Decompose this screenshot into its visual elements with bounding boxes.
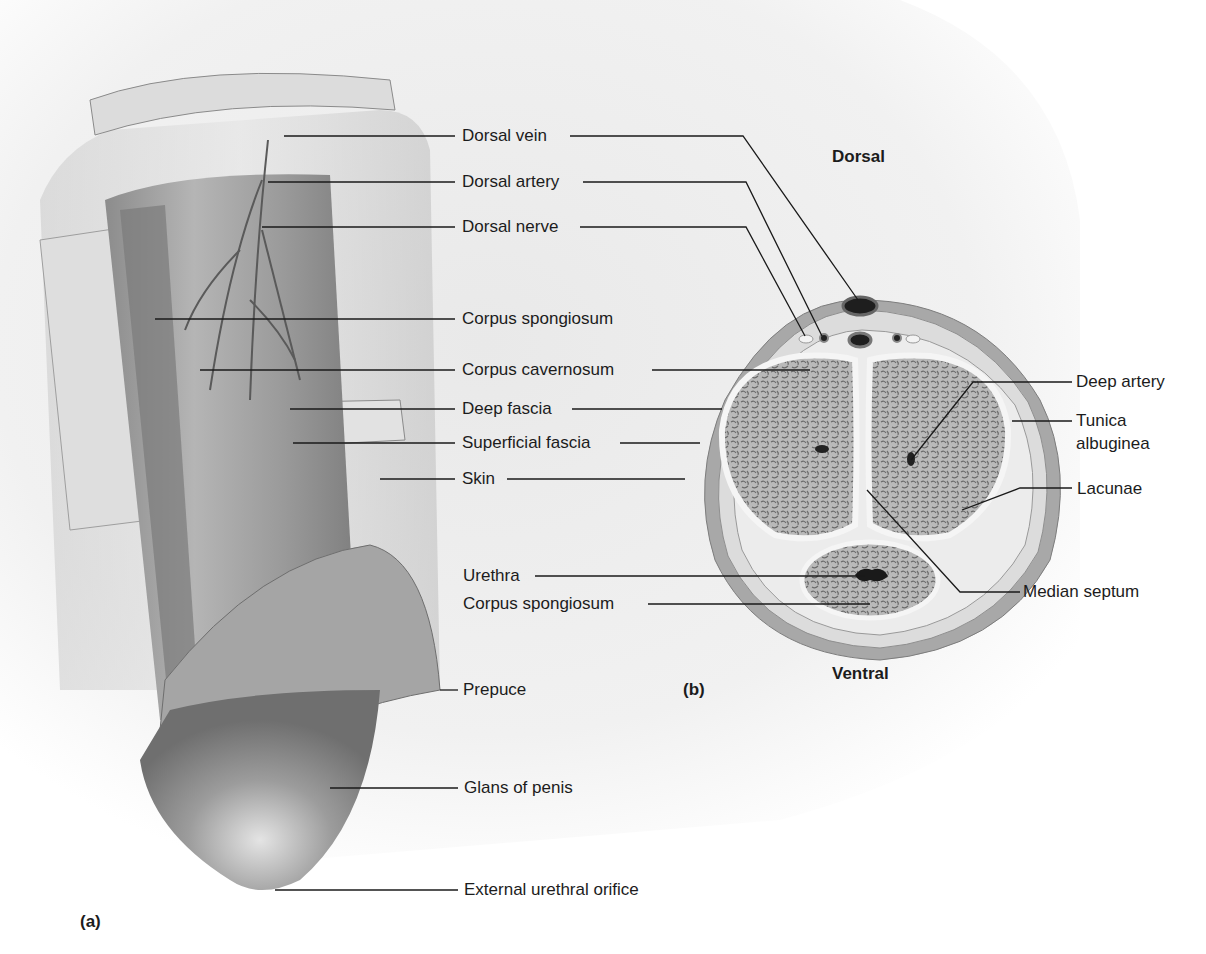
label-corpus-spongiosum-b: Corpus spongiosum: [463, 594, 614, 614]
label-glans: Glans of penis: [464, 778, 573, 798]
leader-dorsal-artery-b: [583, 182, 822, 336]
leader-dorsal-nerve-b: [580, 227, 805, 336]
label-corpus-cavernosum: Corpus cavernosum: [462, 360, 614, 380]
label-skin: Skin: [462, 469, 495, 489]
leader-lacunae: [962, 488, 1072, 510]
leader-dorsal-vein-b: [570, 136, 858, 300]
panel-b-tag: (b): [683, 680, 705, 700]
label-dorsal-vein: Dorsal vein: [462, 126, 547, 146]
label-dorsal-artery: Dorsal artery: [462, 172, 559, 192]
label-prepuce: Prepuce: [463, 680, 526, 700]
label-deep-fascia: Deep fascia: [462, 399, 552, 419]
leader-lines: [0, 0, 1206, 954]
label-deep-artery: Deep artery: [1076, 372, 1165, 392]
orientation-ventral: Ventral: [832, 664, 889, 684]
label-superficial-fascia: Superficial fascia: [462, 433, 591, 453]
label-tunica-albuginea-line2: albuginea: [1076, 434, 1150, 454]
label-median-septum: Median septum: [1023, 582, 1139, 602]
label-urethra: Urethra: [463, 566, 520, 586]
panel-a-tag: (a): [80, 912, 101, 932]
label-external-urethral-orifice: External urethral orifice: [464, 880, 639, 900]
leader-median-septum: [867, 490, 1020, 592]
orientation-dorsal: Dorsal: [832, 147, 885, 167]
label-tunica-albuginea-line1: Tunica: [1076, 411, 1126, 431]
label-corpus-spongiosum-a: Corpus spongiosum: [462, 309, 613, 329]
label-lacunae: Lacunae: [1077, 479, 1142, 499]
label-dorsal-nerve: Dorsal nerve: [462, 217, 558, 237]
